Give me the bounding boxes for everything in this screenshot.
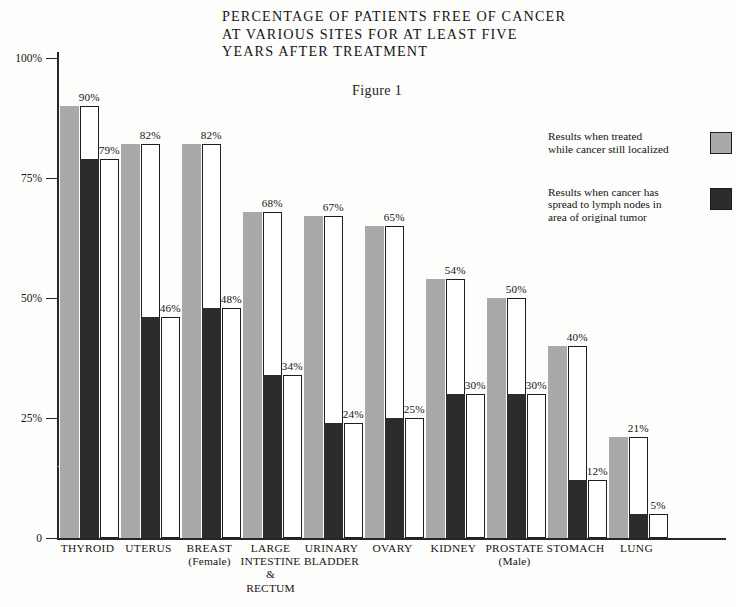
bar-spread-overlay (141, 317, 160, 538)
value-label-localized: 65% (378, 211, 411, 223)
y-tick-label: 25% (21, 412, 42, 424)
bar-spread-overlay (80, 159, 99, 538)
value-label-localized: 50% (500, 283, 533, 295)
category-label-line: BLADDER (290, 555, 373, 568)
bar-spread-overlay (629, 514, 648, 538)
bar-spread-overlay (202, 308, 221, 538)
bar-localized (487, 298, 506, 538)
y-tick-mark (46, 178, 57, 179)
value-outline-spread (405, 418, 424, 538)
value-label-localized: 54% (439, 264, 472, 276)
bar-spread-overlay (507, 394, 526, 538)
value-outline-spread (466, 394, 485, 538)
value-label-localized: 40% (561, 331, 594, 343)
value-label-spread: 5% (642, 499, 675, 511)
value-outline-spread (588, 480, 607, 538)
y-tick-mark (46, 298, 57, 299)
plot-area: 100%75%50%25%0 90%79%82%46%82%48%68%34%6… (0, 0, 736, 607)
y-tick-label: 75% (21, 172, 42, 184)
x-axis-line (57, 538, 726, 540)
bar-localized (182, 144, 201, 538)
bar-localized (121, 144, 140, 538)
bar-spread-overlay (263, 375, 282, 538)
y-tick-label: 50% (21, 292, 42, 304)
value-outline-spread (222, 308, 241, 538)
category-label-line: & (229, 568, 312, 581)
bar-localized (548, 346, 567, 538)
bar-localized (365, 226, 384, 538)
value-outline-spread (527, 394, 546, 538)
chart-page: PERCENTAGE OF PATIENTS FREE OF CANCER AT… (0, 0, 736, 607)
category-label: LUNG (595, 542, 678, 555)
category-label-line: RECTUM (229, 582, 312, 595)
value-label-localized: 21% (622, 422, 655, 434)
bar-localized (426, 279, 445, 538)
value-label-localized: 67% (317, 201, 350, 213)
bar-spread-overlay (446, 394, 465, 538)
bar-localized (304, 216, 323, 538)
value-outline-spread (344, 423, 363, 538)
value-label-localized: 82% (134, 129, 167, 141)
y-tick-label: 100% (15, 52, 42, 64)
y-tick-mark (46, 58, 57, 59)
y-tick-label: 0 (36, 532, 42, 544)
value-outline-spread (100, 159, 119, 538)
y-tick-mark (46, 418, 57, 419)
bar-spread-overlay (568, 480, 587, 538)
y-tick-mark (46, 538, 57, 539)
bar-spread-overlay (324, 423, 343, 538)
bar-localized (243, 212, 262, 538)
value-outline-spread (283, 375, 302, 538)
category-label-line: (Male) (473, 555, 556, 568)
bar-localized (609, 437, 628, 538)
bar-spread-overlay (385, 418, 404, 538)
value-label-localized: 82% (195, 129, 228, 141)
category-label-line: LUNG (595, 542, 678, 555)
value-label-localized: 90% (73, 91, 106, 103)
value-outline-spread (161, 317, 180, 538)
value-outline-spread (649, 514, 668, 538)
value-label-localized: 68% (256, 197, 289, 209)
bar-localized (60, 106, 79, 538)
